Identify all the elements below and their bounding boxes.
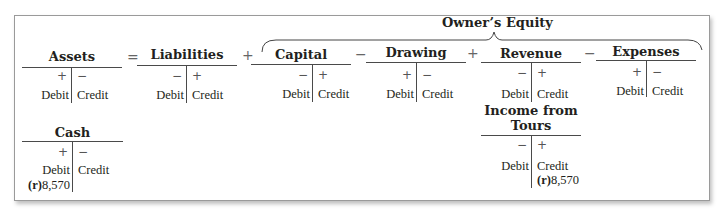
- minus-sign: −: [355, 46, 367, 62]
- credit-label: Credit: [422, 87, 453, 102]
- account-title: Drawing: [366, 45, 466, 60]
- debit-label: Debit: [282, 87, 310, 102]
- owners-equity-label: Owner’s Equity: [442, 15, 553, 30]
- debit-label: Debit: [501, 87, 529, 102]
- entry-ref: (r): [537, 173, 551, 187]
- account-title: Expenses: [596, 44, 696, 59]
- credit-entry: (r)8,570: [537, 173, 579, 188]
- divider: [72, 141, 73, 192]
- debit-label: Debit: [386, 87, 414, 102]
- credit-label: Credit: [77, 88, 108, 103]
- debit-label: Debit: [616, 84, 644, 99]
- divider: [71, 67, 72, 103]
- decrease-sign: −: [652, 65, 662, 79]
- divider: [646, 60, 647, 97]
- t-account-liabilities: Liabilities − + Debit Credit: [137, 49, 237, 109]
- account-title-line2: Tours: [481, 118, 581, 133]
- debit-label: Debit: [501, 159, 529, 174]
- entry-ref: (r): [28, 178, 42, 192]
- divider: [312, 64, 313, 102]
- t-account-assets: Assets + − Debit Credit: [22, 49, 122, 109]
- credit-label: Credit: [318, 87, 349, 102]
- decrease-sign: −: [298, 68, 308, 82]
- entry-amount: 8,570: [551, 173, 579, 187]
- account-title: Assets: [22, 49, 122, 64]
- increase-sign: +: [537, 138, 547, 152]
- account-title: Revenue: [481, 46, 581, 61]
- credit-label: Credit: [652, 84, 683, 99]
- decrease-sign: −: [517, 66, 527, 80]
- divider: [22, 67, 122, 68]
- plus-sign: +: [467, 45, 479, 61]
- increase-sign: +: [318, 68, 328, 82]
- t-account-drawing: Drawing + − Debit Credit: [366, 47, 466, 107]
- increase-sign: +: [57, 69, 67, 83]
- t-account-capital: Capital − + Debit Credit: [251, 47, 351, 107]
- increase-sign: +: [402, 68, 412, 82]
- minus-sign: −: [584, 45, 596, 61]
- decrease-sign: −: [422, 68, 432, 82]
- divider: [186, 65, 187, 103]
- t-account-income-from-tours: Income from Tours − + Debit Credit (r)8,…: [481, 105, 581, 195]
- debit-label: Debit: [41, 88, 69, 103]
- decrease-sign: −: [517, 138, 527, 152]
- increase-sign: +: [537, 66, 547, 80]
- divider: [137, 65, 237, 66]
- entry-amount: 8,570: [42, 178, 70, 192]
- decrease-sign: −: [77, 69, 87, 83]
- debit-label: Debit: [42, 163, 70, 178]
- debit-entry: (r)8,570: [28, 178, 70, 193]
- divider: [531, 135, 532, 188]
- increase-sign: +: [58, 145, 68, 159]
- t-account-cash: Cash + − Debit Credit (r)8,570: [22, 125, 123, 195]
- divider: [531, 62, 532, 102]
- debit-label: Debit: [156, 88, 184, 103]
- account-title: Capital: [251, 47, 351, 62]
- decrease-sign: −: [78, 145, 88, 159]
- credit-label: Credit: [192, 88, 223, 103]
- account-title: Cash: [22, 125, 123, 140]
- account-title: Liabilities: [137, 47, 237, 62]
- account-title-line1: Income from: [481, 103, 581, 118]
- credit-label: Credit: [78, 163, 109, 178]
- divider: [416, 62, 417, 102]
- credit-label: Credit: [537, 87, 568, 102]
- t-account-expenses: Expenses + − Debit Credit: [596, 45, 696, 105]
- increase-sign: +: [632, 65, 642, 79]
- decrease-sign: −: [172, 69, 182, 83]
- t-account-revenue: Revenue − + Debit Credit: [481, 46, 581, 106]
- increase-sign: +: [192, 69, 202, 83]
- credit-label: Credit: [537, 159, 568, 174]
- divider: [251, 64, 351, 65]
